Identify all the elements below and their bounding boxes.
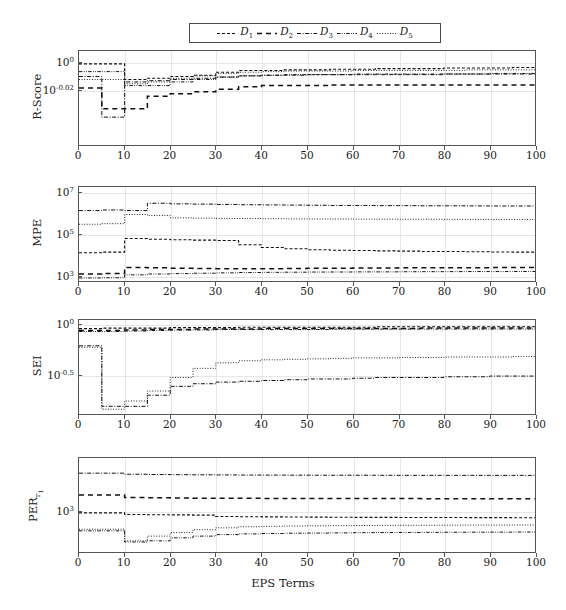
legend-swatch-d4: [337, 29, 357, 38]
xtick-label: 80: [438, 419, 451, 430]
xtick-label: 60: [346, 286, 359, 297]
xtick-label: 90: [484, 150, 497, 161]
xtick-label: 100: [526, 150, 546, 161]
ytick-mark: [78, 511, 82, 512]
xtick-label: 40: [255, 557, 268, 568]
series-line-d2: [79, 267, 535, 274]
xtick-label: 30: [209, 150, 222, 161]
ytick-mark: [78, 90, 82, 91]
xtick-label: 90: [484, 286, 497, 297]
ytick-label: 107: [0, 187, 74, 198]
xtick-label: 50: [300, 286, 313, 297]
panel-mpe: [78, 186, 536, 282]
series-line-d5: [79, 525, 535, 541]
xtick-label: 60: [346, 419, 359, 430]
panel-r-score: [78, 50, 536, 146]
series-line-d1: [79, 513, 535, 518]
curves-panel3: [79, 320, 535, 414]
xaxis-panel3: 0102030405060708090100: [78, 415, 536, 433]
xtick-label: 30: [209, 286, 222, 297]
xtick-label: 40: [255, 286, 268, 297]
legend-label-d2: D2: [280, 26, 293, 40]
xtick-label: 30: [209, 557, 222, 568]
legend-swatch-d5: [377, 29, 397, 38]
series-line-d5: [79, 215, 535, 225]
ylabel-r-score: R-Score: [32, 57, 44, 137]
ytick-label: 105: [0, 229, 74, 240]
ytick-label: 100: [0, 319, 74, 330]
xlabel-eps-terms: EPS Terms: [0, 578, 566, 590]
xtick-label: 80: [438, 557, 451, 568]
figure-root: D1 D2 D3 D4 D5 R-Score: [0, 0, 566, 610]
xtick-label: 20: [163, 557, 176, 568]
curves-panel2: [79, 187, 535, 281]
ytick-mark: [78, 276, 82, 277]
xtick-label: 20: [163, 150, 176, 161]
xtick-label: 60: [346, 150, 359, 161]
xtick-label: 20: [163, 419, 176, 430]
xtick-label: 60: [346, 557, 359, 568]
legend: D1 D2 D3 D4 D5: [189, 23, 441, 43]
series-line-d3: [79, 346, 535, 407]
legend-item-d4: D4: [335, 26, 375, 40]
xtick-label: 10: [117, 419, 130, 430]
series-line-d2: [79, 85, 535, 109]
xtick-label: 50: [300, 557, 313, 568]
xtick-label: 90: [484, 419, 497, 430]
xtick-label: 0: [75, 286, 82, 297]
xtick-label: 10: [117, 557, 130, 568]
xtick-label: 100: [526, 419, 546, 430]
legend-label-d5: D5: [400, 26, 413, 40]
series-line-d4: [79, 329, 535, 331]
series-line-d5: [79, 347, 535, 409]
legend-swatch-d2: [257, 29, 277, 38]
xtick-label: 90: [484, 557, 497, 568]
xaxis-panel1: 0102030405060708090100: [78, 146, 536, 164]
ytick-mark: [78, 62, 82, 63]
xtick-label: 0: [75, 150, 82, 161]
series-line-d5: [79, 70, 535, 84]
series-line-d1: [79, 64, 535, 80]
series-line-d3: [79, 473, 535, 475]
legend-item-d5: D5: [375, 26, 415, 40]
xtick-label: 40: [255, 419, 268, 430]
ytick-label: 103: [0, 506, 74, 517]
ytick-label: 10-0.02: [0, 84, 74, 95]
curves-panel1: [79, 51, 535, 145]
legend-item-d3: D3: [295, 26, 335, 40]
ytick-label: 10-0.5: [0, 370, 74, 381]
xaxis-panel2: 0102030405060708090100: [78, 282, 536, 300]
xtick-label: 50: [300, 419, 313, 430]
panel-sei: [78, 319, 536, 415]
series-line-d4: [79, 271, 535, 278]
panel-per: [78, 457, 536, 553]
series-line-d2: [79, 495, 535, 499]
xtick-label: 10: [117, 286, 130, 297]
ytick-mark: [78, 192, 82, 193]
xtick-label: 40: [255, 150, 268, 161]
legend-item-d2: D2: [255, 26, 295, 40]
legend-label-d4: D4: [360, 26, 373, 40]
xtick-label: 30: [209, 419, 222, 430]
xtick-label: 10: [117, 150, 130, 161]
xtick-label: 0: [75, 419, 82, 430]
xtick-label: 80: [438, 286, 451, 297]
legend-item-d1: D1: [215, 26, 255, 40]
xtick-label: 70: [392, 557, 405, 568]
xaxis-panel4: 0102030405060708090100: [78, 553, 536, 571]
ytick-mark: [78, 324, 82, 325]
series-line-d3: [79, 203, 535, 210]
ytick-mark: [78, 234, 82, 235]
xtick-label: 50: [300, 150, 313, 161]
xtick-label: 70: [392, 150, 405, 161]
xtick-label: 70: [392, 419, 405, 430]
ytick-label: 100: [0, 56, 74, 67]
ytick-mark: [78, 375, 82, 376]
xtick-label: 20: [163, 286, 176, 297]
ytick-label: 103: [0, 270, 74, 281]
xtick-label: 80: [438, 150, 451, 161]
series-line-d1: [79, 239, 535, 253]
xtick-label: 100: [526, 286, 546, 297]
legend-swatch-d3: [297, 29, 317, 38]
series-line-d4: [79, 531, 535, 542]
